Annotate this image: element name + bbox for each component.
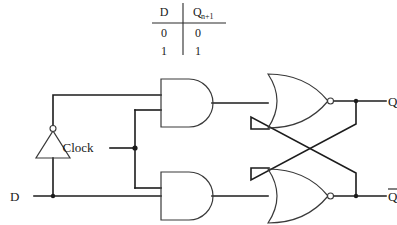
inverter-bubble-icon	[50, 126, 56, 132]
truth-table: D Q n+1 0 0 1 1	[152, 3, 226, 58]
d-flip-flop-figure: D Q n+1 0 0 1 1	[0, 0, 397, 225]
nor-gate-bottom[interactable]	[268, 169, 334, 223]
nor-gate-bottom-bubble-icon	[328, 193, 334, 199]
truth-table-header-d: D	[160, 5, 169, 19]
wire-crosscouple-qbar-to-nor-top	[251, 117, 356, 196]
clock-junction-dot	[132, 145, 137, 150]
q-output-label: Q	[388, 94, 397, 109]
nor-gate-top-body	[268, 74, 328, 128]
and-gate-top[interactable]	[161, 79, 213, 127]
table-row: 0 0	[161, 26, 201, 40]
and-gate-top-body	[161, 79, 213, 127]
truth-table-cell-d-0: 0	[161, 26, 167, 40]
d-junction-dot	[51, 194, 55, 198]
truth-table-cell-d-1: 1	[161, 44, 167, 58]
nor-gate-top-bubble-icon	[328, 98, 334, 104]
circuit-diagram-canvas: D Q n+1 0 0 1 1	[0, 0, 397, 225]
truth-table-cell-q-1: 1	[195, 44, 201, 58]
wire-inverter-to-and-top	[53, 95, 161, 127]
q-bar-output-label: Q	[388, 189, 397, 204]
q-tap-junction-dot	[354, 99, 358, 103]
and-gate-bottom[interactable]	[161, 172, 213, 220]
and-gate-bottom-body	[161, 172, 213, 220]
clock-input-label: Clock	[62, 140, 94, 155]
nor-gate-top[interactable]	[268, 74, 334, 128]
table-row: 1 1	[161, 44, 201, 58]
wire-crosscouple-q-to-nor-bottom	[251, 101, 356, 180]
qbar-tap-junction-dot	[354, 194, 358, 198]
truth-table-header-q-subscript: n+1	[201, 12, 214, 21]
q-bar-output-label-group: Q	[388, 189, 397, 204]
nor-gate-bottom-body	[268, 169, 328, 223]
d-input-label: D	[10, 189, 19, 204]
truth-table-cell-q-0: 0	[195, 26, 201, 40]
